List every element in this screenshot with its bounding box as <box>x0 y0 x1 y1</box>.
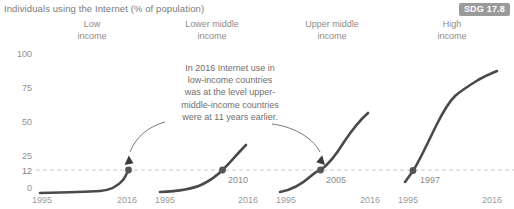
marker-dot-upper-middle-income <box>317 167 324 174</box>
annotation-arrow-left-path <box>130 122 165 152</box>
series-line-high-income <box>405 71 497 182</box>
series-line-low-income <box>40 170 129 193</box>
x-tick-panel1-start: 1995 <box>32 196 52 205</box>
x-tick-panel4-start: 1995 <box>398 196 418 205</box>
x-tick-panel2-start: 1995 <box>155 196 175 205</box>
x-tick-panel4-end: 2016 <box>482 196 502 205</box>
marker-dot-high-income <box>410 167 417 174</box>
chart-root: Individuals using the Internet (% of pop… <box>0 0 514 209</box>
marker-dot-lower-middle-income <box>219 167 226 174</box>
annotation-arrow-left-head <box>125 156 134 166</box>
x-tick-panel3-start: 1995 <box>276 196 296 205</box>
marker-dot-low-income <box>125 167 132 174</box>
marker-label-high-income: 1997 <box>420 176 440 185</box>
annotation-arrow-right-path <box>272 124 320 152</box>
marker-label-upper-middle-income: 2005 <box>326 176 346 185</box>
x-tick-panel1-end: 2016 <box>117 196 137 205</box>
series-line-upper-middle-income <box>280 113 368 192</box>
x-tick-panel2-end: 2016 <box>238 196 258 205</box>
marker-label-lower-middle-income: 2010 <box>228 176 248 185</box>
x-tick-panel3-end: 2016 <box>360 196 380 205</box>
annotation-arrow-right-head <box>316 155 325 165</box>
